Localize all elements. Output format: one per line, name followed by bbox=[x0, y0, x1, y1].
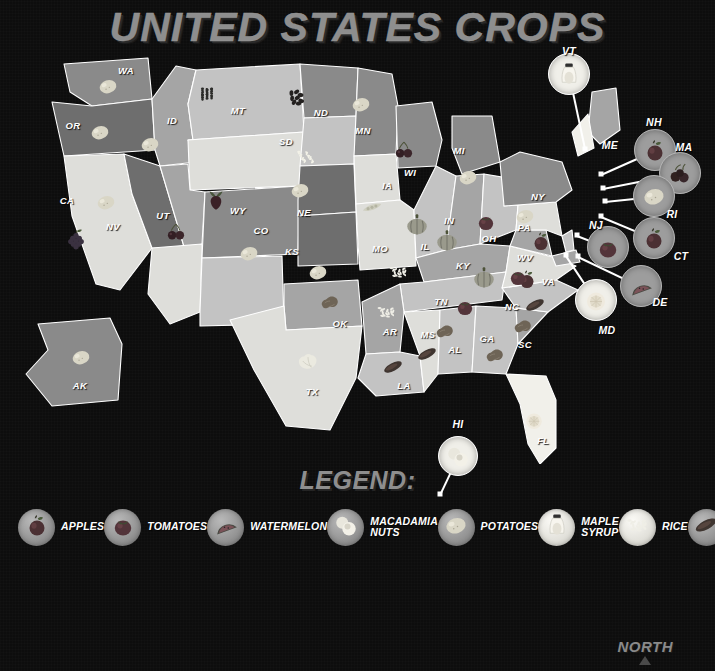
state-shape-FL bbox=[506, 374, 556, 464]
legend-item-label: APPLES bbox=[61, 521, 104, 533]
callout-crop-icon-VT bbox=[554, 59, 584, 89]
legend-item-label: MAPLE SYRUP bbox=[581, 516, 619, 539]
callout-anchor-MD bbox=[564, 253, 569, 258]
macadamia-icon bbox=[327, 509, 364, 546]
legend-item-label: RICE bbox=[662, 521, 688, 533]
callout-crop-icon-RI bbox=[639, 181, 669, 211]
state-shape-ME bbox=[588, 88, 620, 144]
legend-item-label: TOMATOES bbox=[147, 521, 207, 533]
callout-bubble-NJ[interactable] bbox=[587, 226, 629, 268]
callout-anchor-CT bbox=[599, 214, 604, 219]
state-shape-NE bbox=[298, 164, 356, 216]
callout-crop-icon-DE bbox=[626, 271, 656, 301]
callout-bubble-CT[interactable] bbox=[633, 217, 675, 259]
tomato-icon bbox=[104, 509, 141, 546]
state-shape-MI bbox=[452, 116, 500, 174]
state-shape-OR bbox=[52, 99, 155, 156]
state-shape-IA bbox=[354, 154, 400, 204]
state-shape-SC bbox=[516, 308, 548, 344]
state-shape-WY bbox=[188, 132, 304, 190]
poster-root: UNITED STATES CROPS bbox=[0, 0, 715, 671]
state-shape-LA bbox=[358, 352, 424, 396]
state-shape-OK bbox=[284, 280, 362, 330]
state-shape-AL bbox=[438, 306, 476, 374]
callout-bubble-MD[interactable] bbox=[575, 279, 617, 321]
compass-arrow-icon bbox=[639, 656, 651, 665]
potato-icon bbox=[438, 509, 475, 546]
legend-item-label: MACADAMIA NUTS bbox=[370, 516, 437, 539]
state-shape-GA bbox=[472, 306, 518, 374]
state-shape-ND bbox=[300, 64, 358, 118]
callout-bubble-RI[interactable] bbox=[633, 175, 675, 217]
sweet-potato-icon bbox=[688, 509, 715, 546]
state-shape-KS bbox=[298, 212, 358, 266]
callout-anchor-MA bbox=[601, 186, 606, 191]
state-shape-SD bbox=[300, 116, 356, 166]
legend-item[interactable]: POTATOES bbox=[438, 506, 539, 548]
state-shape-AR bbox=[362, 284, 404, 354]
maple-syrup-icon bbox=[538, 509, 575, 546]
state-shape-NY bbox=[500, 152, 572, 206]
legend-item-label: WATERMELON bbox=[250, 521, 327, 533]
state-shape-AK bbox=[26, 318, 122, 406]
state-shape-WA bbox=[64, 58, 152, 106]
watermelon-icon bbox=[207, 509, 244, 546]
callout-crop-icon-MD bbox=[581, 285, 611, 315]
callout-anchor-VT bbox=[583, 147, 588, 152]
state-shape-AZ bbox=[148, 244, 202, 324]
state-shape-NJ bbox=[562, 230, 574, 252]
callout-anchor-NH bbox=[599, 172, 604, 177]
legend-item[interactable]: APPLES bbox=[18, 506, 104, 548]
state-shape-MN bbox=[354, 68, 398, 156]
legend-item[interactable]: WATERMELON bbox=[207, 506, 327, 548]
state-shape-CO bbox=[202, 186, 300, 258]
legend-item[interactable]: MACADAMIA NUTS bbox=[327, 506, 437, 548]
legend-item-label: POTATOES bbox=[481, 521, 539, 533]
callout-bubble-DE[interactable] bbox=[620, 265, 662, 307]
state-shape-WI bbox=[396, 102, 442, 168]
legend-item[interactable]: MAPLE SYRUP bbox=[538, 506, 619, 548]
rice-icon bbox=[619, 509, 656, 546]
callout-crop-icon-CT bbox=[639, 223, 669, 253]
callout-anchor-DE bbox=[576, 254, 581, 259]
state-shape-TN bbox=[400, 272, 506, 312]
callout-bubble-VT[interactable] bbox=[548, 53, 590, 95]
apple-icon bbox=[18, 509, 55, 546]
legend-heading: LEGEND: bbox=[0, 466, 715, 495]
callout-crop-icon-NJ bbox=[593, 232, 623, 262]
legend-item[interactable]: SWEET POTATOES bbox=[688, 506, 715, 548]
compass-label: NORTH bbox=[617, 638, 673, 655]
compass: NORTH bbox=[617, 638, 673, 665]
state-shape-MO bbox=[356, 200, 416, 270]
legend-item[interactable]: TOMATOES bbox=[104, 506, 207, 548]
us-crops-map: WAORIDMTNDMNSDWYNVCAUTCONEKSIAMOWIMIILIN… bbox=[0, 44, 715, 464]
legend-list: APPLESTOMATOESWATERMELONMACADAMIA NUTSPO… bbox=[18, 506, 708, 632]
callout-anchor-RI bbox=[603, 199, 608, 204]
callout-anchor-NJ bbox=[575, 233, 580, 238]
legend-item[interactable]: RICE bbox=[619, 506, 688, 548]
